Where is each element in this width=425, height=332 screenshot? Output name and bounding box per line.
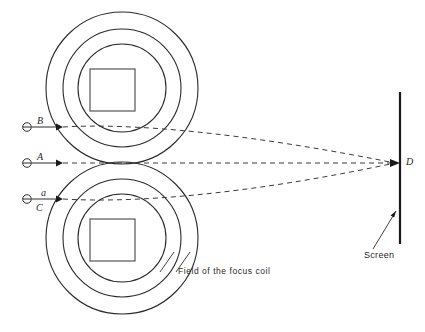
focus-coil-diagram: B A a C D Screen Field of the focus coil [0,0,425,332]
lower-coil-core-square [90,219,135,261]
angle-a-label: a [41,188,46,198]
figure-caption: Field of the focus coil [178,267,271,276]
source-c-arrowhead-icon [56,196,63,203]
lower-focus-coil [46,162,198,314]
screen-callout-leader [373,211,396,249]
source-a-group [23,159,395,168]
upper-coil-ring-inner [78,44,166,132]
screen-leader-line [373,211,396,249]
source-c-label: C [36,203,43,213]
lower-coil-ring-middle [63,179,181,297]
screen-label: Screen [364,251,394,260]
lower-coil-ring-outer [46,162,198,314]
focus-point-arrowhead-icon [390,159,400,167]
diagram-canvas [0,0,425,332]
upper-focus-coil [46,12,198,164]
source-b-arrowhead-icon [56,124,63,131]
upper-coil-core-square [90,69,135,111]
screen-leader-arrowhead-icon [391,211,397,218]
source-a-label: A [37,152,43,162]
source-c-group [23,163,395,203]
lower-coil-ring-inner [78,194,166,282]
source-b-label: B [37,116,43,126]
trajectory-b-to-d [63,126,395,163]
focus-point-d-label: D [406,157,413,167]
upper-coil-ring-outer [46,12,198,164]
source-a-arrowhead-icon [56,160,63,167]
source-b-group [23,123,395,163]
